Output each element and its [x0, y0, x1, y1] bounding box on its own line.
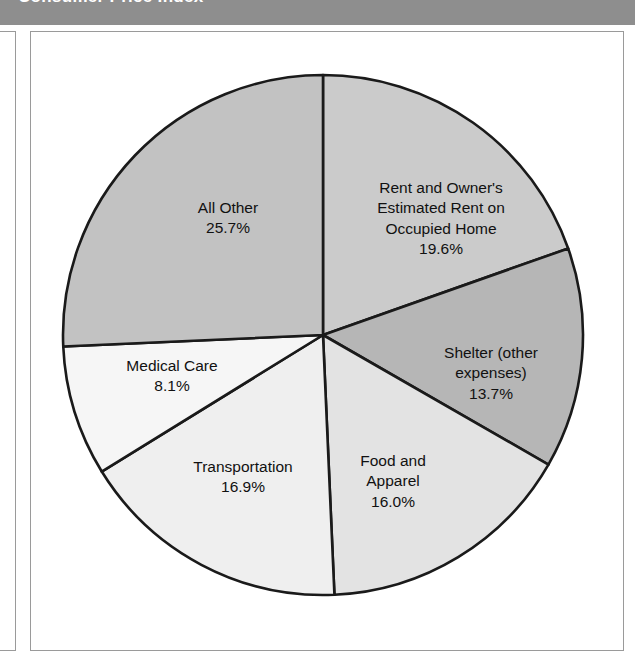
left-rail-panel [0, 31, 16, 651]
header-title: Consumer Price Index [18, 0, 204, 7]
pie-chart-svg [31, 32, 625, 652]
header-band: Consumer Price Index [0, 0, 635, 25]
pie-slice-group [63, 75, 583, 595]
pie-slice-all-other[interactable] [63, 75, 323, 346]
figure-frame: Rent and Owner'sEstimated Rent onOccupie… [30, 31, 624, 651]
pie-chart: Rent and Owner'sEstimated Rent onOccupie… [31, 32, 625, 652]
